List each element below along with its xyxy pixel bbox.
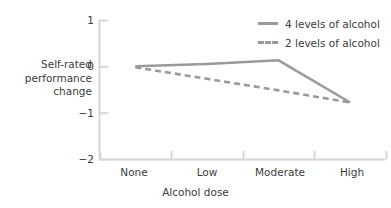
legend-label-4-levels: 4 levels of alcohol (285, 18, 380, 30)
y-tick-label-1: 1 (72, 15, 94, 26)
y-tick-label-neg1: −1 (72, 108, 94, 119)
x-tick-label-low: Low (177, 167, 237, 178)
x-axis-label: Alcohol dose (0, 186, 391, 198)
legend-swatch-dashed-icon (258, 41, 278, 44)
x-tick-label-none: None (104, 167, 164, 178)
x-axis-ticks (101, 151, 387, 159)
y-axis-label-line-3: change (4, 85, 92, 99)
y-axis-ticks (100, 21, 109, 160)
y-tick-label-0: 0 (72, 61, 94, 72)
legend-item-4-levels[interactable]: 4 levels of alcohol (258, 16, 380, 31)
legend-swatch-solid-icon (258, 22, 278, 25)
legend-item-2-levels[interactable]: 2 levels of alcohol (258, 35, 380, 50)
data-series-group (135, 60, 350, 102)
chart-legend: 4 levels of alcohol 2 levels of alcohol (258, 16, 380, 54)
x-tick-label-high: High (322, 167, 382, 178)
y-axis-label-line-2: performance (4, 72, 92, 86)
y-tick-label-neg2: −2 (72, 154, 94, 165)
legend-label-2-levels: 2 levels of alcohol (285, 37, 380, 49)
x-tick-label-moderate: Moderate (243, 167, 317, 178)
chart-figure: Self-rated performance change 1 0 −1 −2 … (0, 0, 391, 208)
